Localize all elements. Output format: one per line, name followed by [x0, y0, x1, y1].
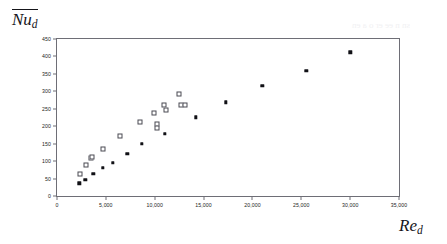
y-axis-tick-label: 100 [42, 158, 51, 164]
data-point-open-square [177, 92, 182, 97]
data-point-filled-diamond [140, 142, 143, 145]
y-axis-tick-label: 0 [48, 193, 51, 199]
x-axis-tick-label: 15,000 [195, 202, 211, 208]
x-axis-tick [105, 196, 106, 200]
y-axis-tick-label: 200 [42, 123, 51, 129]
x-axis-title-main: Re [399, 216, 417, 235]
x-axis-tick-label: 10,000 [146, 202, 162, 208]
y-axis-tick [53, 108, 57, 109]
y-axis-tick [53, 91, 57, 92]
data-point-open-square [78, 172, 83, 177]
data-point-filled-diamond [78, 182, 81, 185]
x-axis-tick-label: 20,000 [244, 202, 260, 208]
y-axis-tick-label: 300 [42, 88, 51, 94]
plot-area: 05010015020025030035040045005,00010,0001… [56, 38, 400, 197]
data-point-filled-diamond [348, 51, 351, 54]
data-point-open-square [84, 162, 89, 167]
x-axis-title: Red [399, 217, 423, 237]
x-axis-tick-label: 0 [56, 202, 59, 208]
y-axis-tick [53, 178, 57, 179]
data-point-filled-diamond [91, 172, 94, 175]
data-point-filled-diamond [194, 115, 197, 118]
data-point-open-square [163, 107, 168, 112]
data-point-open-square [100, 147, 105, 152]
x-axis-tick [154, 196, 155, 200]
data-point-filled-diamond [224, 100, 227, 103]
y-axis-tick [53, 73, 57, 74]
y-axis-tick [53, 143, 57, 144]
y-axis-title-subscript: d [32, 18, 38, 31]
data-point-open-square [117, 133, 122, 138]
x-axis-tick [203, 196, 204, 200]
y-axis-tick [53, 161, 57, 162]
x-axis-tick-label: 35,000 [391, 202, 407, 208]
x-axis-tick [301, 196, 302, 200]
y-axis-tick [53, 39, 57, 40]
data-point-filled-diamond [84, 178, 87, 181]
data-point-open-square [182, 102, 187, 107]
y-axis-tick [53, 56, 57, 57]
x-axis-tick-label: 25,000 [293, 202, 309, 208]
data-point-open-square [155, 125, 160, 130]
x-axis-tick [252, 196, 253, 200]
data-point-filled-diamond [101, 166, 104, 169]
x-axis-tick [350, 196, 351, 200]
y-axis-title: Nud [12, 9, 38, 31]
data-point-open-square [90, 154, 95, 159]
x-axis-tick [399, 196, 400, 200]
y-axis-tick [53, 126, 57, 127]
x-axis-title-subscript: d [417, 224, 423, 237]
y-axis-tick-label: 400 [42, 53, 51, 59]
data-point-filled-diamond [304, 69, 307, 72]
y-axis-tick-label: 250 [42, 106, 51, 112]
y-axis-tick-label: 350 [42, 71, 51, 77]
data-point-filled-diamond [260, 84, 263, 87]
data-point-filled-diamond [111, 161, 114, 164]
y-axis-tick-label: 450 [42, 36, 51, 42]
x-axis-tick [57, 196, 58, 200]
x-axis-tick-label: 30,000 [342, 202, 358, 208]
data-point-filled-diamond [163, 132, 166, 135]
y-axis-tick-label: 150 [42, 141, 51, 147]
data-point-open-square [151, 111, 156, 116]
data-point-open-square [138, 120, 143, 125]
y-axis-tick-label: 50 [45, 176, 51, 182]
y-axis-title-main: Nu [12, 10, 32, 29]
scan-bleed-through-text-upper: sn n ee er o a en [120, 20, 410, 36]
x-axis-tick-label: 5,000 [99, 202, 112, 208]
data-point-filled-diamond [126, 152, 129, 155]
